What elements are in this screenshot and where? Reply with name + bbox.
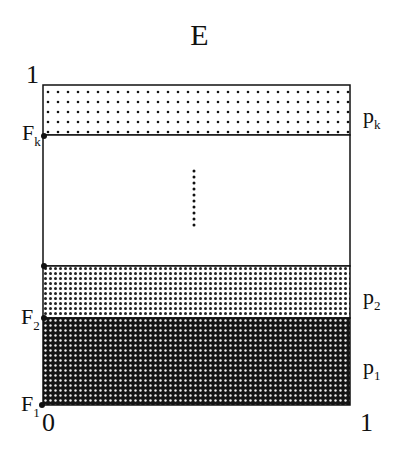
label-pk: pk	[363, 105, 381, 131]
band-middle-empty	[43, 135, 350, 266]
label-fk: Fk	[22, 122, 41, 148]
label-f2: F2	[21, 306, 40, 332]
band-p2	[43, 266, 350, 318]
point-f2	[41, 315, 47, 321]
label-p1: p1	[363, 356, 381, 382]
point-fk	[41, 133, 47, 139]
band-pk	[43, 85, 350, 135]
x-axis-left-label: 0	[42, 410, 55, 436]
label-f1: F1	[21, 393, 40, 419]
band-p1	[43, 318, 350, 405]
point-f3	[41, 263, 47, 269]
x-axis-right-label: 1	[360, 410, 373, 436]
probability-partition-diagram	[0, 0, 399, 458]
y-axis-top-label: 1	[26, 62, 39, 88]
label-p2: p2	[363, 286, 381, 312]
